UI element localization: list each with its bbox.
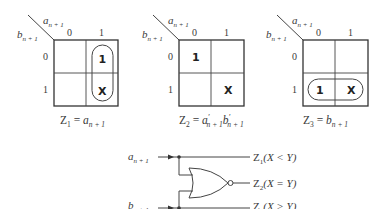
equation-z2: Z2 = a′n + 1b′n + 1 <box>179 113 244 129</box>
col-var-label: an + 1 <box>292 14 313 29</box>
cell-1-0: 1 <box>316 84 324 97</box>
cell-1-1: X <box>224 84 233 97</box>
output-z1-label: Z1(X < Y) <box>253 151 297 166</box>
row-header-0: 0 <box>292 51 297 62</box>
col-header-1: 1 <box>99 27 104 38</box>
output-z3-label: Z3(X > Y) <box>253 200 297 209</box>
equation-z3: Z3 = bn + 1 <box>303 114 348 129</box>
col-var-label: an + 1 <box>168 14 189 29</box>
col-header-1: 1 <box>224 27 229 38</box>
row-header-0: 0 <box>168 51 173 62</box>
row-header-1: 1 <box>292 84 297 95</box>
col-header-0: 0 <box>316 27 321 38</box>
row-var-label: bn + 1 <box>17 28 38 43</box>
col-header-0: 0 <box>67 27 72 38</box>
nor-gate <box>189 168 228 198</box>
output-z2-label: Z2(X = Y) <box>253 177 297 192</box>
arrow-icon <box>168 155 174 160</box>
row-var-label: bn + 1 <box>266 28 287 43</box>
input-a-label: an + 1 <box>128 150 149 165</box>
col-header-1: 1 <box>348 27 353 38</box>
equation-z1: Z1 = an + 1 <box>60 114 105 129</box>
cell-0-1: 1 <box>99 53 107 66</box>
nor-circuit: an + 1 bn + 1 Z1(X < Y) Z2(X = Y) Z3(X >… <box>128 150 297 209</box>
kmap-z3: an + 1 bn + 1 0 1 0 1 1 X Z3 = bn + 1 <box>266 14 368 129</box>
comparator-figure: an + 1 bn + 1 0 1 0 1 1 X Z1 = an + 1 an… <box>0 0 383 209</box>
row-header-0: 0 <box>43 51 48 62</box>
row-header-1: 1 <box>43 84 48 95</box>
col-var-label: an + 1 <box>43 14 64 29</box>
cell-0-0: 1 <box>192 51 200 64</box>
input-b-label: bn + 1 <box>128 199 149 209</box>
row-var-label: bn + 1 <box>142 28 163 43</box>
kmap-z1: an + 1 bn + 1 0 1 0 1 1 X Z1 = an + 1 <box>17 14 118 129</box>
col-header-0: 0 <box>192 27 197 38</box>
cell-1-1: X <box>98 85 107 98</box>
row-header-1: 1 <box>168 84 173 95</box>
inversion-bubble <box>228 181 233 186</box>
cell-1-1: X <box>347 84 356 97</box>
kmap-z2: an + 1 bn + 1 0 1 0 1 1 X Z2 = a′n + 1b′… <box>142 14 244 129</box>
